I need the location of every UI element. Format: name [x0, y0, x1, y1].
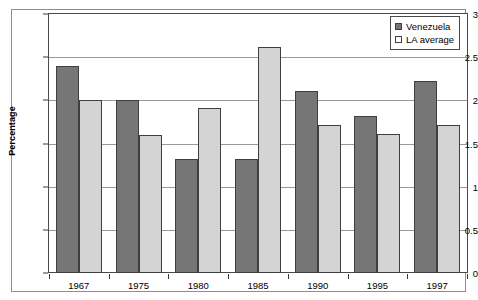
bar-group — [168, 14, 228, 273]
bar-group — [288, 14, 348, 273]
bar-group — [228, 14, 288, 273]
legend-swatch-icon — [395, 36, 402, 43]
y-axis-tick-mark — [43, 186, 48, 187]
bar-group — [407, 14, 467, 273]
x-axis-tick-label: 1995 — [347, 280, 407, 291]
bar-venezuela-1975 — [116, 100, 139, 273]
bar-group — [49, 14, 109, 273]
y-axis-tick-mark — [43, 273, 48, 274]
bar-venezuela-1967 — [56, 66, 79, 273]
x-axis-tick-mark — [228, 274, 229, 279]
x-axis-tick-mark — [348, 274, 349, 279]
x-axis-tick-label: 1967 — [49, 280, 109, 291]
bar-la-average-1997 — [437, 125, 460, 273]
bar-la-average-1975 — [139, 135, 162, 273]
y-axis-tick-mark — [43, 57, 48, 58]
y-axis-tick-mark — [43, 14, 48, 15]
x-axis-tick-mark — [407, 274, 408, 279]
x-axis-tick-mark — [168, 274, 169, 279]
y-axis-tick-mark — [43, 229, 48, 230]
bars-layer — [49, 14, 467, 273]
x-axis-tick-label: 1997 — [407, 280, 467, 291]
bar-la-average-1967 — [79, 100, 102, 273]
bar-venezuela-1985 — [235, 159, 258, 273]
x-axis-tick-label: 1975 — [109, 280, 169, 291]
bar-group — [348, 14, 408, 273]
bar-venezuela-1980 — [175, 159, 198, 273]
legend-label: LA average — [406, 34, 454, 45]
bar-la-average-1990 — [318, 125, 341, 273]
bar-chart-figure: Percentage 00.511.522.53 196719751980198… — [0, 0, 478, 300]
chart-legend: VenezuelaLA average — [390, 16, 460, 50]
x-axis-tick-mark — [49, 274, 50, 279]
legend-swatch-icon — [395, 23, 402, 30]
y-axis-tick-mark — [43, 143, 48, 144]
x-axis-tick-mark — [467, 274, 468, 279]
bar-la-average-1995 — [377, 134, 400, 273]
bar-la-average-1980 — [198, 108, 221, 273]
x-axis-tick-label: 1985 — [228, 280, 288, 291]
x-axis-tick-label: 1990 — [288, 280, 348, 291]
x-axis-tick-mark — [109, 274, 110, 279]
y-axis-tick-mark — [43, 100, 48, 101]
bar-venezuela-1990 — [295, 91, 318, 273]
bar-venezuela-1995 — [354, 116, 377, 273]
bar-la-average-1985 — [258, 47, 281, 273]
x-axis-tick-label: 1980 — [168, 280, 228, 291]
bar-venezuela-1997 — [414, 81, 437, 273]
y-axis-title: Percentage — [7, 96, 17, 166]
legend-item-venezuela: Venezuela — [395, 20, 454, 33]
bar-group — [109, 14, 169, 273]
legend-label: Venezuela — [406, 21, 450, 32]
x-axis-tick-mark — [288, 274, 289, 279]
legend-item-la-average: LA average — [395, 33, 454, 46]
